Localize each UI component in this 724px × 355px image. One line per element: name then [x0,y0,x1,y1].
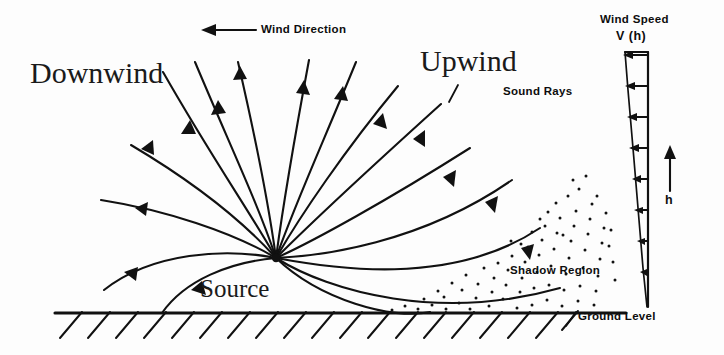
upwind-ray-3 [276,86,398,258]
downwind-ray-1 [238,62,276,258]
figure-linework: .ray { fill: none; stroke: #111111; stro… [0,0,724,355]
wind-direction-label: Wind Direction [261,24,346,36]
source-label: Source [200,276,269,301]
upwind-ray-5 [276,148,470,258]
sound-rays-leader [449,85,458,102]
upwind-ray-7 [276,228,540,269]
ground-group [55,311,626,338]
ground-hatching [60,311,578,338]
upwind-label: Upwind [420,46,517,76]
wind-direction-arrow [201,24,256,36]
wind-refraction-figure: .ray { fill: none; stroke: #111111; stro… [0,0,724,355]
downwind-ray-5 [101,200,276,258]
height-arrow [664,145,676,191]
wind-speed-label: Wind Speed [600,14,669,26]
upwind-ray-6 [276,180,512,258]
shadow-region-label: Shadow Region [510,265,600,277]
sound-rays-label: Sound Rays [503,86,572,98]
downwind-ray-2 [195,62,276,258]
wind-speed-profile [623,51,648,307]
height-axis-label: h [665,194,673,207]
upwind-arrowheads [296,80,534,260]
wind-speed-function-label: V (h) [616,30,646,43]
source-point [272,254,280,262]
ground-level-label: Ground Level [578,311,656,323]
downwind-ray-3 [163,72,276,258]
upwind-ray-9 [276,258,430,314]
shadow-region-dots [391,175,617,312]
downwind-label: Downwind [30,58,163,88]
